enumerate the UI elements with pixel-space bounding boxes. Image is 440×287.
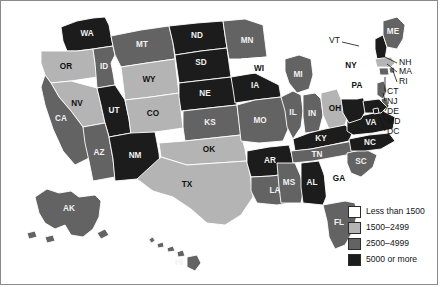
callout-label-NJ: NJ (387, 96, 398, 106)
callout-label-MD: MD (387, 116, 400, 126)
state-AL[interactable] (301, 161, 327, 205)
callout-label-MA: MA (399, 66, 412, 76)
state-MI[interactable] (285, 55, 313, 93)
legend-swatch-5000-or-more (348, 254, 361, 266)
state-SC[interactable] (347, 149, 377, 177)
callout-label-CT: CT (387, 86, 399, 96)
state-OR[interactable] (41, 49, 97, 83)
state-NJ[interactable] (377, 81, 387, 99)
legend-item-0[interactable]: Less than 1500 (348, 204, 436, 219)
callout-label-RI: RI (399, 76, 408, 86)
legend-item-1[interactable]: 1500–2499 (348, 220, 436, 235)
state-MS[interactable] (277, 163, 303, 203)
state-MO[interactable] (237, 97, 289, 143)
callout-label-VT: VT (329, 35, 341, 45)
state-HI[interactable] (149, 237, 201, 271)
legend-item-2[interactable]: 2500–4999 (348, 236, 436, 251)
state-ME[interactable] (383, 17, 405, 49)
legend-label-1: 1500–2499 (366, 223, 409, 232)
legend-label-2: 2500–4999 (366, 239, 409, 248)
state-WA[interactable] (61, 17, 113, 51)
callout-label-DE: DE (387, 106, 399, 116)
legend-swatch-1500-2499 (348, 222, 361, 234)
state-CO[interactable] (125, 93, 183, 135)
legend-item-3[interactable]: 5000 or more (348, 252, 436, 267)
state-ID[interactable] (93, 46, 115, 88)
callout-line-VT (342, 42, 359, 46)
legend-swatch-less-than-1500 (348, 206, 361, 218)
state-CT[interactable] (379, 68, 389, 75)
state-DC[interactable] (373, 108, 379, 114)
map-legend: Less than 1500 1500–2499 2500–4999 5000 … (348, 204, 436, 268)
state-IN[interactable] (303, 93, 323, 133)
state-MN[interactable] (223, 19, 267, 59)
map-figure-frame: WA OR ID MT WY NV UT CA AZ CO NM ND SD N… (0, 0, 438, 285)
state-MA[interactable] (375, 57, 395, 67)
callout-label-DC: DC (387, 126, 399, 136)
state-AK[interactable] (27, 189, 109, 243)
state-TX[interactable] (137, 157, 253, 225)
legend-label-0: Less than 1500 (366, 207, 425, 216)
legend-label-3: 5000 or more (366, 255, 417, 264)
legend-swatch-2500-4999 (348, 238, 361, 250)
label-HI: HI (175, 258, 183, 267)
